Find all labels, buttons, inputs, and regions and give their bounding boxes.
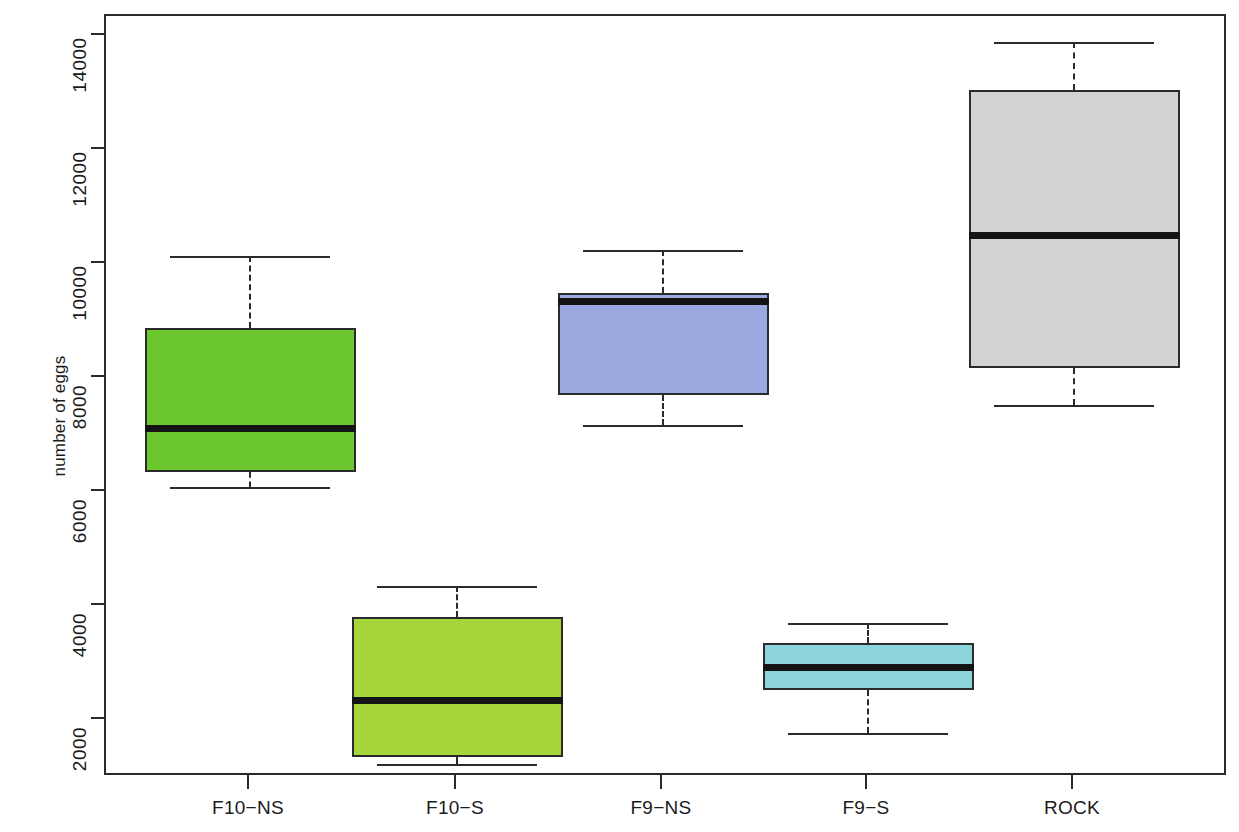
box-rock (969, 90, 1180, 368)
median-line (558, 298, 769, 305)
lower-whisker (662, 395, 664, 425)
y-tick-label: 14000 (69, 33, 91, 97)
y-tick-mark (91, 603, 104, 605)
y-tick-label: 2000 (69, 717, 91, 781)
x-tick-mark (1071, 775, 1073, 789)
upper-whisker (1073, 42, 1075, 90)
box-plot-series (106, 16, 1224, 773)
upper-whisker-cap (583, 250, 743, 252)
x-tick-mark (865, 775, 867, 789)
upper-whisker-cap (377, 586, 537, 588)
lower-whisker-cap (583, 425, 743, 427)
x-tick-label-f9ns: F9−NS (571, 797, 751, 819)
lower-whisker-cap (994, 405, 1154, 407)
lower-whisker (867, 690, 869, 732)
y-tick-mark (91, 147, 104, 149)
upper-whisker (456, 586, 458, 617)
y-tick-label: 6000 (69, 489, 91, 553)
plot-area (104, 14, 1226, 775)
upper-whisker (867, 623, 869, 643)
upper-whisker-cap (788, 623, 948, 625)
y-tick-mark (91, 261, 104, 263)
y-tick-mark (91, 717, 104, 719)
median-line (969, 232, 1180, 239)
boxplot-figure: number of eggs 2000400060008000100001200… (0, 0, 1239, 832)
x-tick-label-rock: ROCK (982, 797, 1162, 819)
x-tick-label-f10ns: F10−NS (158, 797, 338, 819)
lower-whisker (456, 757, 458, 764)
lower-whisker (1073, 368, 1075, 405)
y-tick-label: 10000 (69, 261, 91, 325)
median-line (352, 697, 563, 704)
lower-whisker (249, 472, 251, 487)
lower-whisker-cap (377, 764, 537, 766)
x-tick-mark (454, 775, 456, 789)
upper-whisker-cap (994, 42, 1154, 44)
x-tick-mark (660, 775, 662, 789)
x-tick-label-f9s: F9−S (776, 797, 956, 819)
y-tick-label: 4000 (69, 603, 91, 667)
x-tick-mark (247, 775, 249, 789)
x-tick-label-f10s: F10−S (365, 797, 545, 819)
median-line (763, 664, 974, 671)
upper-whisker (662, 250, 664, 293)
lower-whisker-cap (170, 487, 330, 489)
lower-whisker-cap (788, 733, 948, 735)
box-f10ns (145, 328, 356, 472)
y-tick-mark (91, 33, 104, 35)
y-tick-mark (91, 375, 104, 377)
y-tick-label: 12000 (69, 147, 91, 211)
y-tick-mark (91, 489, 104, 491)
upper-whisker (249, 256, 251, 328)
y-tick-label: 8000 (69, 375, 91, 439)
box-f9ns (558, 293, 769, 396)
box-f10s (352, 617, 563, 757)
upper-whisker-cap (170, 256, 330, 258)
median-line (145, 425, 356, 432)
